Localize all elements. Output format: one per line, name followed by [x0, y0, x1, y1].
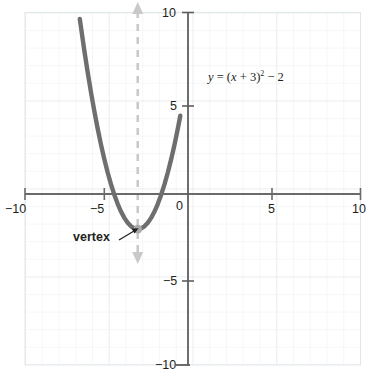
vertex-annotation-label: vertex — [73, 231, 110, 244]
x-tick-label-10: 10 — [352, 203, 366, 216]
equation-tail: − 2 — [264, 70, 284, 84]
equation-eq: = ( — [214, 70, 231, 84]
grid-lines — [25, 12, 361, 365]
parabola-plot — [0, 0, 377, 381]
y-tick-label--10: −10 — [155, 359, 176, 372]
y-tick-label-10: 10 — [162, 7, 176, 20]
x-tick-label--5: −5 — [90, 203, 104, 216]
equation-plus: + 3) — [237, 70, 261, 84]
y-tick-label--5: −5 — [163, 275, 177, 288]
x-tick-label-0: 0 — [176, 200, 183, 213]
y-tick-label-5: 5 — [170, 100, 177, 113]
x-tick-label--10: −10 — [5, 203, 26, 216]
x-tick-label-5: 5 — [268, 203, 275, 216]
equation-label: y = (x + 3)2 − 2 — [208, 70, 284, 84]
chart-canvas: −10 −5 0 5 10 10 5 −5 −10 y = (x + 3)2 −… — [0, 0, 377, 381]
